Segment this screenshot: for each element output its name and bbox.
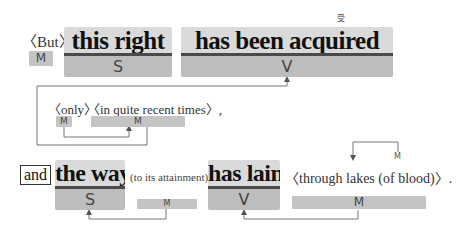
role-badge-m: M (137, 199, 197, 209)
verb-block: has been acquired V (181, 27, 393, 77)
verb-role-label: V (208, 189, 280, 210)
subject-role-label: S (55, 189, 125, 210)
conjunction-box: and (20, 165, 51, 185)
connector-only-modifier (64, 127, 129, 137)
verb-text: has lain (208, 160, 280, 187)
subject-role-label: S (64, 56, 172, 77)
passive-annotation: 受 (337, 12, 345, 23)
subject-text: this right (64, 27, 172, 54)
subject-modifier: (to its attainment) (130, 171, 208, 183)
inner-role-m: M (394, 152, 401, 161)
subject-text: the way (55, 160, 125, 187)
connector-of-blood-to-lakes (353, 142, 398, 158)
subject-block: the way S (55, 160, 125, 210)
subject-block: this right S (64, 27, 172, 77)
role-badge-m: M (91, 116, 185, 127)
verb-role-label: V (181, 56, 393, 77)
connector-modifier-to-subject (89, 209, 166, 219)
verb-block: has lain V (208, 160, 280, 210)
verb-text: has been acquired (181, 27, 393, 54)
adverbial-phrase: 〈through lakes (of blood)〉. (285, 167, 452, 187)
connector-adverbial-to-verb (244, 210, 358, 219)
role-badge-m: M (56, 116, 72, 127)
role-badge-m: M (29, 51, 53, 66)
role-badge-m: M (292, 196, 426, 209)
